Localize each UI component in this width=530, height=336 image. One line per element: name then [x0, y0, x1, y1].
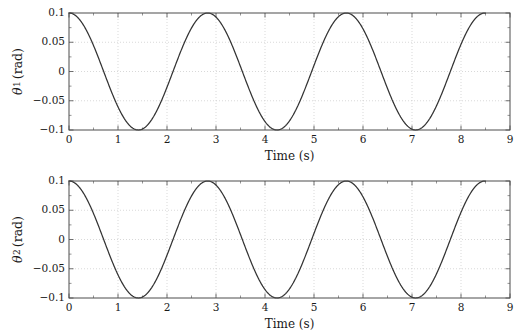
x-tick-label: 6: [349, 301, 377, 313]
x-tick-label: 3: [202, 301, 230, 313]
chart-panel-theta1: θ1(rad) Time (s) −0.1−0.0500.050.1012345…: [0, 0, 530, 168]
y-tick-label: 0.1: [21, 174, 65, 186]
grid-lines: [69, 181, 510, 298]
x-tick-label: 4: [251, 301, 279, 313]
x-tick-label: 7: [398, 133, 426, 145]
y-tick-label: 0.05: [21, 35, 65, 47]
figure-two-panel-oscillation: θ1(rad) Time (s) −0.1−0.0500.050.1012345…: [0, 0, 530, 336]
x-tick-label: 5: [300, 133, 328, 145]
x-tick-label: 4: [251, 133, 279, 145]
x-tick-label: 3: [202, 133, 230, 145]
x-tick-label: 1: [104, 301, 132, 313]
y-tick-label: 0: [21, 233, 65, 245]
x-tick-label: 2: [153, 133, 181, 145]
x-tick-label: 5: [300, 301, 328, 313]
y-tick-label: 0.1: [21, 6, 65, 18]
x-tick-label: 2: [153, 301, 181, 313]
x-tick-label: 9: [496, 133, 524, 145]
x-tick-label: 7: [398, 301, 426, 313]
x-tick-label: 8: [447, 133, 475, 145]
x-axis-label-theta1: Time (s): [69, 149, 510, 163]
grid-lines: [69, 13, 510, 130]
x-tick-label: 8: [447, 301, 475, 313]
y-tick-label: 0.05: [21, 203, 65, 215]
chart-panel-theta2: θ2(rad) Time (s) −0.1−0.0500.050.1012345…: [0, 168, 530, 336]
y-tick-label: 0: [21, 65, 65, 77]
y-tick-label: −0.05: [21, 94, 65, 106]
x-tick-label: 6: [349, 133, 377, 145]
x-tick-label: 9: [496, 301, 524, 313]
x-tick-label: 0: [55, 301, 83, 313]
x-tick-label: 0: [55, 133, 83, 145]
y-tick-label: −0.05: [21, 262, 65, 274]
x-axis-label-theta2: Time (s): [69, 317, 510, 331]
x-tick-label: 1: [104, 133, 132, 145]
